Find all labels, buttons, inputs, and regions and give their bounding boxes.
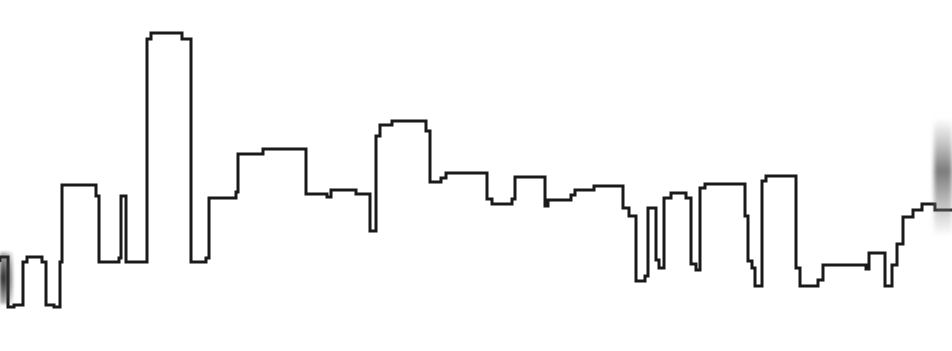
background-rect (0, 0, 952, 351)
skyline-outline-drawing (0, 0, 952, 351)
skyline-image-canvas (0, 0, 952, 351)
